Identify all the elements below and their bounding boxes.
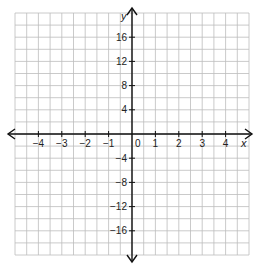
x-axis-label: x bbox=[240, 137, 247, 149]
y-tick-label: −4 bbox=[116, 153, 128, 164]
x-tick-label: −2 bbox=[79, 138, 91, 149]
origin-label: 0 bbox=[135, 138, 141, 149]
y-tick-label: 8 bbox=[121, 80, 127, 91]
y-tick-label: −12 bbox=[110, 201, 127, 212]
x-tick-label: −3 bbox=[56, 138, 68, 149]
y-tick-label: 4 bbox=[121, 104, 127, 115]
axes bbox=[8, 8, 252, 262]
x-tick-label: 3 bbox=[199, 138, 205, 149]
y-tick-label: −8 bbox=[116, 177, 128, 188]
y-tick-label: 12 bbox=[116, 56, 128, 67]
x-tick-label: −4 bbox=[33, 138, 45, 149]
x-tick-label: 2 bbox=[176, 138, 182, 149]
x-tick-label: −1 bbox=[103, 138, 115, 149]
y-axis-label: y bbox=[120, 10, 128, 22]
coordinate-plane: −4−3−2−11234161284−4−8−12−16 x y 0 bbox=[0, 0, 258, 268]
x-tick-label: 4 bbox=[223, 138, 229, 149]
y-tick-label: −16 bbox=[110, 225, 127, 236]
y-tick-label: 16 bbox=[116, 32, 128, 43]
x-tick-label: 1 bbox=[153, 138, 159, 149]
